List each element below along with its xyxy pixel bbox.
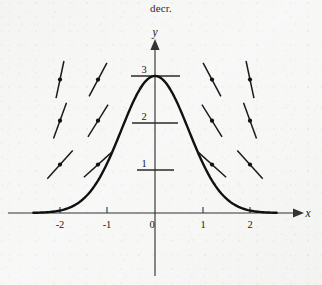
y-tick-label: 3: [141, 64, 146, 75]
x-tick-label: 0: [149, 219, 154, 230]
slope-point-dot: [210, 162, 214, 166]
slope-point-dot: [58, 77, 62, 81]
slope-point-dot: [96, 77, 100, 81]
y-tick-label: 1: [141, 158, 146, 169]
y-tick-label: 2: [141, 111, 146, 122]
slope-point-dot: [58, 162, 62, 166]
slope-point-dot: [248, 77, 252, 81]
x-tick-label: -1: [103, 219, 112, 230]
y-axis: y: [150, 26, 159, 276]
slope-point-dot: [210, 77, 214, 81]
slope-point-dot: [58, 119, 62, 123]
slope-point-dot: [248, 119, 252, 123]
slope-point-dot: [210, 119, 214, 123]
x-tick-label: 1: [200, 219, 205, 230]
x-axis-arrowhead: [293, 208, 304, 217]
slope-field-plot: x y -2 -1 0 1 2 1 2 3: [0, 0, 322, 285]
y-axis-label: y: [151, 26, 158, 39]
figure-page: decr. x y -2 -1 0 1 2: [0, 0, 322, 285]
slope-point-dot: [248, 162, 252, 166]
slope-point-dot: [96, 162, 100, 166]
x-tick-label: -2: [56, 219, 65, 230]
x-tick-group: -2 -1 0 1 2: [56, 207, 253, 230]
slope-point-dot: [96, 119, 100, 123]
x-axis-label: x: [304, 207, 311, 219]
y-axis-arrowhead: [150, 39, 159, 50]
x-tick-label: 2: [247, 219, 252, 230]
